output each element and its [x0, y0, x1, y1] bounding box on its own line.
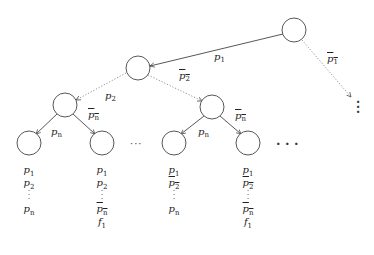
leaf-node — [236, 131, 260, 155]
node-root — [282, 18, 306, 42]
node-n2-left — [53, 93, 77, 117]
tree-diagram: p1 p1 p2 p2 pn pn pn pn ··· · · · ··· p1… — [0, 0, 374, 255]
leaf-node — [17, 131, 41, 155]
node-n1 — [126, 56, 150, 80]
edge-label-pn-right: pn — [198, 127, 209, 139]
leaf-path-1: p1 p2 ··· pn — [14, 163, 44, 215]
edge-label-not-p2: p2 — [179, 71, 190, 83]
edge-label-not-p1: p1 — [327, 54, 338, 66]
leaf-node — [90, 131, 114, 155]
edge-label-not-pn-right: pn — [235, 111, 246, 123]
node-n2-right — [200, 95, 224, 119]
vertical-ellipsis-right: ··· — [356, 100, 360, 115]
edge-root-more — [302, 40, 351, 97]
ellipsis-right: · · · — [276, 136, 299, 151]
edge-label-pn-left: pn — [51, 127, 62, 139]
edge-n1-n2R — [148, 75, 202, 101]
leaf-path-2: p1 p2 ··· pn f1 — [87, 163, 117, 228]
edge-label-p1: p1 — [214, 52, 225, 64]
edge-n1-n2L — [76, 73, 126, 100]
leaf-path-4: p1 p2 ··· pn f1 — [233, 163, 263, 228]
leaf-node — [162, 131, 186, 155]
edge-label-not-pn-left: pn — [88, 110, 99, 122]
leaf-path-3: p1 p2 ··· pn — [159, 163, 189, 215]
edge-label-p2: p2 — [105, 91, 116, 103]
ellipsis-middle: ··· — [130, 138, 143, 149]
